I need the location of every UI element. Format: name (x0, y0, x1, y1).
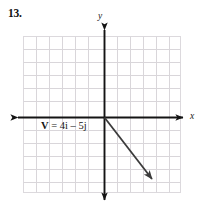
vector-diagram (0, 0, 205, 217)
vector-equation-j-component: 5j (78, 120, 86, 131)
problem-number: 13. (8, 8, 22, 20)
vector-equation-name: V (41, 120, 49, 131)
vector-equation-i-component: 4i (60, 120, 68, 131)
vector-equation-minus: – (68, 120, 79, 131)
x-axis-label: x (190, 112, 194, 122)
grid (24, 37, 181, 193)
vector-equation-equals: = (49, 120, 60, 131)
vector-equation-label: V = 4i – 5j (41, 121, 87, 132)
y-axis-label: y (98, 12, 102, 22)
